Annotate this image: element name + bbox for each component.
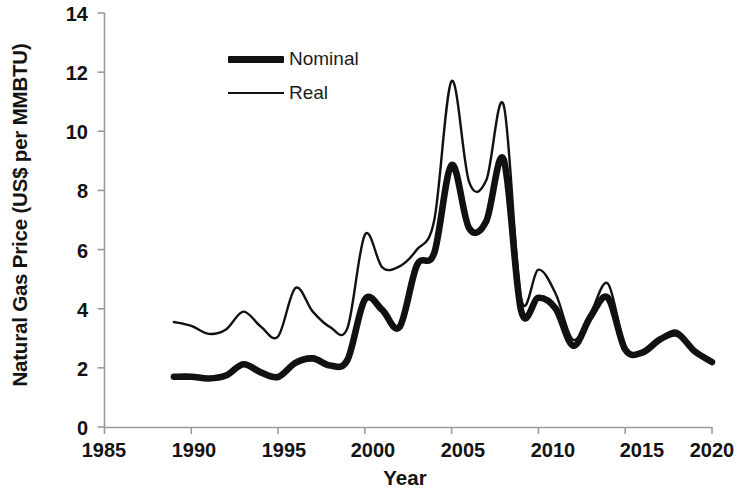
y-axis-ticks (98, 13, 105, 427)
series-line-nominal (174, 157, 712, 378)
chart-legend: Nominal Real (228, 42, 428, 110)
legend-label-nominal: Nominal (289, 48, 359, 70)
legend-item-real: Real (228, 76, 428, 110)
legend-label-real: Real (289, 82, 328, 104)
legend-swatch-real-icon (228, 93, 284, 94)
legend-item-nominal: Nominal (228, 42, 428, 76)
legend-swatch-nominal-icon (228, 59, 284, 60)
